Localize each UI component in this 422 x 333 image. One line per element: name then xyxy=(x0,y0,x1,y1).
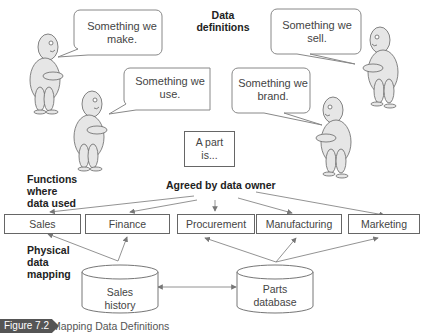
physical-mapping-label: Physical data mapping xyxy=(27,244,71,280)
bubble-use-line-1: Something we xyxy=(130,75,210,88)
definition-line-2: is... xyxy=(201,149,217,162)
database-label-sales-history: Sales history xyxy=(82,286,158,312)
bubble-brand-line-2: brand. xyxy=(234,90,312,103)
function-box-marketing: Marketing xyxy=(348,214,420,234)
bubble-text-make: Something we make. xyxy=(82,20,162,46)
physical-label-line-1: Physical xyxy=(27,244,71,256)
person-figure-1 xyxy=(30,34,63,114)
functions-label-line-2: where xyxy=(27,185,77,197)
db-parts-line-1: Parts xyxy=(237,283,313,296)
figure-number-tag: Figure 7.2 xyxy=(0,319,59,333)
database-label-parts: Parts database xyxy=(237,283,313,309)
bubble-sell-line-2: sell. xyxy=(275,32,359,45)
agreed-label: Agreed by data owner xyxy=(166,179,276,191)
figure-caption: Mapping Data Definitions xyxy=(52,319,169,333)
person-figure-4 xyxy=(316,97,351,178)
diagram-title: Data definitions xyxy=(191,9,255,33)
bubble-make-line-2: make. xyxy=(82,33,162,46)
db-sales-line-1: Sales xyxy=(82,286,158,299)
bubble-make-line-1: Something we xyxy=(82,20,162,33)
definition-box: A part is... xyxy=(184,131,235,167)
person-figure-2 xyxy=(74,91,107,171)
title-line-1: Data xyxy=(191,9,255,21)
ownership-arrows xyxy=(50,192,384,215)
db-parts-line-2: database xyxy=(237,296,313,309)
bubble-text-sell: Something we sell. xyxy=(275,19,359,45)
functions-label: Functions where data used xyxy=(27,173,77,209)
physical-label-line-2: data xyxy=(27,256,71,268)
functions-label-line-3: data used xyxy=(27,197,77,209)
bubble-sell-line-1: Something we xyxy=(275,19,359,32)
db-sales-line-2: history xyxy=(82,299,158,312)
bubble-use-line-2: use. xyxy=(130,88,210,101)
title-line-2: definitions xyxy=(191,21,255,33)
person-figure-3 xyxy=(363,27,398,108)
functions-label-line-1: Functions xyxy=(27,173,77,185)
function-box-finance: Finance xyxy=(85,214,170,234)
definition-line-1: A part xyxy=(196,136,223,149)
function-box-manufacturing: Manufacturing xyxy=(256,214,342,234)
bubble-text-use: Something we use. xyxy=(130,75,210,101)
bubble-text-brand: Something we brand. xyxy=(234,77,312,103)
bubble-brand-line-1: Something we xyxy=(234,77,312,90)
function-box-sales: Sales xyxy=(4,214,81,234)
physical-label-line-3: mapping xyxy=(27,268,71,280)
function-box-procurement: Procurement xyxy=(177,214,255,234)
